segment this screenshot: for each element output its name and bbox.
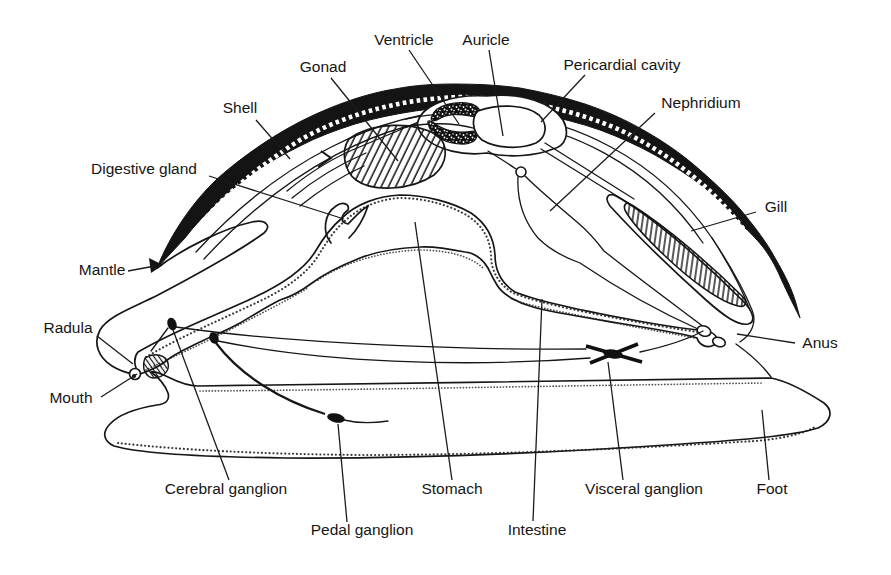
label-visceral-ganglion: Visceral ganglion [585, 480, 703, 497]
label-anus: Anus [802, 334, 838, 351]
label-ventricle: Ventricle [374, 31, 433, 48]
radula-shape [144, 355, 169, 378]
mollusc-anatomy-figure: VentricleAuricleGonadPericardial cavityS… [0, 0, 891, 575]
label-auricle: Auricle [462, 31, 509, 48]
label-pericardial-cavity: Pericardial cavity [563, 56, 680, 73]
label-cerebral-ganglion: Cerebral ganglion [165, 480, 287, 497]
label-shell: Shell [223, 99, 257, 116]
label-foot: Foot [756, 480, 788, 497]
label-pedal-ganglion: Pedal ganglion [311, 521, 414, 538]
diagram-svg: VentricleAuricleGonadPericardial cavityS… [0, 0, 891, 575]
label-mantle: Mantle [79, 261, 126, 278]
label-gonad: Gonad [300, 58, 347, 75]
label-radula: Radula [43, 319, 92, 336]
label-stomach: Stomach [421, 480, 482, 497]
label-intestine: Intestine [508, 521, 567, 538]
label-mouth: Mouth [49, 389, 92, 406]
label-gill: Gill [765, 198, 787, 215]
renopericardial-pore [516, 167, 526, 177]
label-nephridium: Nephridium [661, 94, 740, 111]
auricle-shape [473, 106, 545, 147]
label-digestive-gland: Digestive gland [91, 160, 197, 177]
